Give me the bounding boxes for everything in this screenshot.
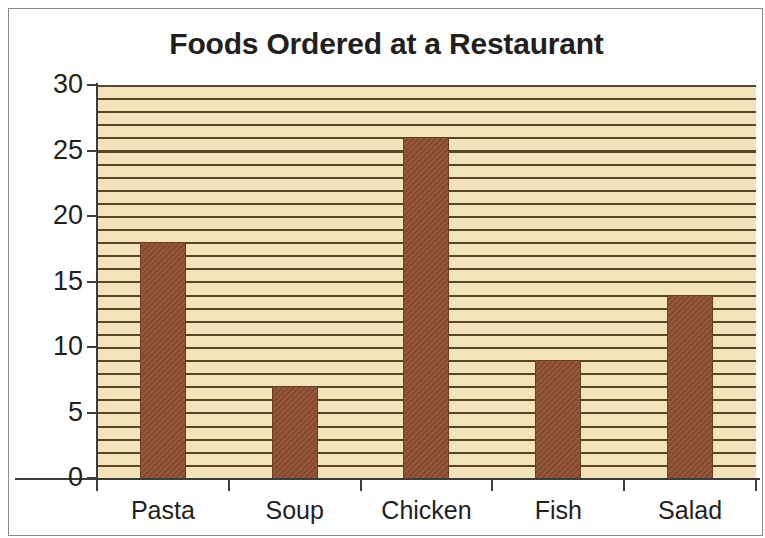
x-tick-mark xyxy=(228,479,230,491)
bar-slot xyxy=(492,85,624,478)
y-tick-label: 25 xyxy=(21,137,83,164)
y-tick-label: 15 xyxy=(21,268,83,295)
x-tick-mark xyxy=(623,479,625,491)
y-tick-mark xyxy=(87,281,98,283)
plot-area xyxy=(97,85,756,478)
bar-fish[interactable] xyxy=(535,360,581,478)
x-tick-label-salad: Salad xyxy=(624,498,756,523)
y-tick-mark xyxy=(87,150,98,152)
bar-slot xyxy=(97,85,229,478)
y-tick-label: 30 xyxy=(21,71,83,98)
chart-frame: Foods Ordered at a Restaurant 0510152025… xyxy=(8,8,763,536)
x-tick-mark xyxy=(360,479,362,491)
y-tick-mark xyxy=(87,477,98,479)
y-tick-label: 20 xyxy=(21,202,83,229)
x-tick-label-chicken: Chicken xyxy=(361,498,493,523)
bar-soup[interactable] xyxy=(272,386,318,478)
x-tick-label-soup: Soup xyxy=(229,498,361,523)
chart-title: Foods Ordered at a Restaurant xyxy=(9,27,763,61)
x-axis-line xyxy=(15,478,760,480)
y-tick-label: 10 xyxy=(21,333,83,360)
y-tick-mark xyxy=(87,215,98,217)
bar-salad[interactable] xyxy=(667,295,713,478)
y-tick-label: 5 xyxy=(21,399,83,426)
bar-chicken[interactable] xyxy=(403,137,449,478)
bar-slot xyxy=(229,85,361,478)
y-tick-mark xyxy=(87,346,98,348)
x-tick-mark xyxy=(96,479,98,491)
bars-layer xyxy=(97,85,756,478)
chart-container: Foods Ordered at a Restaurant 0510152025… xyxy=(0,0,765,538)
x-tick-mark xyxy=(491,479,493,491)
x-tick-label-pasta: Pasta xyxy=(97,498,229,523)
y-tick-mark xyxy=(87,84,98,86)
x-tick-label-fish: Fish xyxy=(492,498,624,523)
bar-slot xyxy=(361,85,493,478)
bar-slot xyxy=(624,85,756,478)
y-axis-labels: 051015202530 xyxy=(9,9,83,536)
y-tick-label: 0 xyxy=(21,464,83,491)
bar-pasta[interactable] xyxy=(140,242,186,478)
y-tick-mark xyxy=(87,412,98,414)
x-tick-mark xyxy=(755,479,757,491)
